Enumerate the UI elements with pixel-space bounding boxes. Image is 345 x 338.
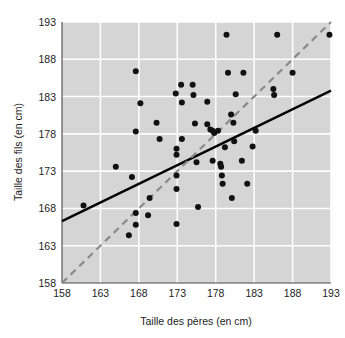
data-point xyxy=(126,232,132,238)
data-point xyxy=(154,120,160,126)
data-point xyxy=(195,204,201,210)
data-point xyxy=(290,70,296,76)
data-point xyxy=(174,173,180,179)
y-axis-title: Taille des fils (en cm) xyxy=(12,103,24,201)
data-point xyxy=(174,152,180,158)
data-point xyxy=(231,138,237,144)
data-point xyxy=(225,70,231,76)
data-point xyxy=(239,158,245,164)
data-point xyxy=(133,210,139,216)
data-point xyxy=(253,128,259,134)
data-point xyxy=(190,92,196,98)
data-point xyxy=(204,99,210,105)
data-point xyxy=(145,212,151,218)
y-tick-label: 188 xyxy=(38,53,56,65)
x-tick-label: 188 xyxy=(284,287,302,299)
data-point xyxy=(220,181,226,187)
data-point xyxy=(218,164,224,170)
x-tick-label: 173 xyxy=(169,287,187,299)
data-point xyxy=(240,70,246,76)
chart-canvas: 158163168173178183188193 158163168173178… xyxy=(0,0,345,338)
data-point xyxy=(81,202,87,208)
y-tick-label: 158 xyxy=(38,277,56,289)
data-point xyxy=(192,120,198,126)
x-tick-label: 163 xyxy=(92,287,110,299)
y-tick-label: 193 xyxy=(38,16,56,28)
scatter-plot-figure: 158163168173178183188193 158163168173178… xyxy=(0,0,345,338)
data-point xyxy=(230,120,236,126)
x-axis-title: Taille des pères (en cm) xyxy=(140,315,251,327)
data-point xyxy=(129,174,135,180)
x-tick-labels: 158163168173178183188193 xyxy=(53,287,340,299)
data-point xyxy=(174,146,180,152)
data-point xyxy=(113,164,119,170)
data-point xyxy=(270,86,276,92)
data-point xyxy=(229,195,235,201)
data-point xyxy=(210,158,216,164)
data-point xyxy=(194,159,200,165)
x-tick-label: 193 xyxy=(322,287,340,299)
data-point xyxy=(215,128,221,134)
data-point xyxy=(174,221,180,227)
data-point xyxy=(179,136,185,142)
y-tick-labels: 158163168173178183188193 xyxy=(38,16,56,289)
y-tick-label: 163 xyxy=(38,240,56,252)
data-point xyxy=(174,186,180,192)
data-point xyxy=(222,144,228,150)
data-point xyxy=(179,100,185,106)
data-point xyxy=(173,91,179,97)
data-point xyxy=(133,129,139,135)
data-point xyxy=(250,144,256,150)
data-point xyxy=(204,121,210,127)
data-point xyxy=(190,82,196,88)
data-point xyxy=(274,32,280,38)
data-point xyxy=(219,173,225,179)
data-point xyxy=(228,111,234,117)
data-point xyxy=(147,195,153,201)
data-point xyxy=(137,100,143,106)
data-point xyxy=(157,136,163,142)
x-tick-label: 168 xyxy=(130,287,148,299)
y-tick-label: 168 xyxy=(38,202,56,214)
x-tick-label: 183 xyxy=(245,287,263,299)
data-point xyxy=(244,181,250,187)
data-point xyxy=(178,82,184,88)
data-point xyxy=(133,68,139,74)
y-tick-label: 183 xyxy=(38,91,56,103)
data-point xyxy=(326,32,332,38)
data-point xyxy=(271,92,277,98)
data-point xyxy=(233,91,239,97)
y-tick-label: 173 xyxy=(38,165,56,177)
data-point xyxy=(133,222,139,228)
y-tick-label: 178 xyxy=(38,128,56,140)
x-tick-label: 178 xyxy=(207,287,225,299)
data-point xyxy=(223,32,229,38)
